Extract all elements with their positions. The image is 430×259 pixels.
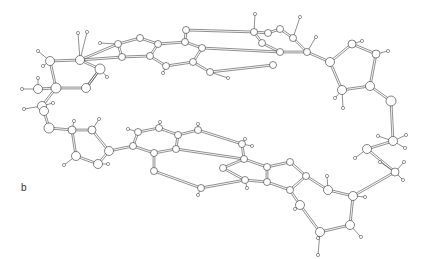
atom: [241, 156, 248, 163]
atom: [386, 96, 396, 106]
atom: [346, 221, 355, 230]
atom: [277, 49, 284, 56]
bond: [198, 131, 242, 145]
atom: [173, 146, 180, 153]
hydrogen-atom: [51, 101, 54, 104]
hydrogen-atom: [386, 49, 389, 52]
hydrogen-atom: [293, 207, 296, 210]
atom: [242, 177, 249, 184]
bond: [186, 29, 254, 31]
hydrogen-atom: [85, 30, 88, 33]
hydrogen-atom: [325, 174, 328, 177]
atom: [76, 56, 85, 65]
hydrogen-atom: [97, 117, 100, 120]
bond: [198, 129, 242, 143]
bond: [390, 101, 392, 141]
atom: [82, 84, 91, 93]
atom: [68, 126, 76, 134]
bond: [176, 150, 244, 160]
hydrogen-atom: [353, 156, 356, 159]
atom: [265, 30, 272, 37]
bond: [158, 41, 185, 43]
bond: [202, 47, 280, 51]
hydrogen-atom: [253, 12, 256, 15]
atom: [105, 147, 114, 156]
bond: [122, 57, 150, 58]
atom: [270, 62, 277, 69]
atom: [324, 186, 333, 195]
atom: [239, 141, 246, 148]
bond: [154, 172, 201, 189]
atom: [182, 39, 189, 46]
hydrogen-atom: [378, 160, 381, 163]
atom: [349, 192, 358, 201]
atom: [34, 85, 43, 94]
bond: [154, 170, 201, 187]
atom: [95, 64, 105, 74]
hydrogen-atom: [20, 87, 23, 90]
atom: [151, 150, 158, 157]
bond: [353, 173, 395, 197]
bond: [223, 167, 245, 179]
bond: [210, 64, 273, 71]
atom: [264, 179, 271, 186]
hydrogen-atom: [245, 186, 248, 189]
atom: [338, 86, 347, 95]
hydrogen-atom: [36, 49, 39, 52]
atom: [207, 69, 214, 76]
bond: [166, 61, 193, 65]
atom: [290, 35, 297, 42]
atom: [88, 126, 96, 134]
atom: [389, 137, 398, 146]
atom: [44, 123, 54, 133]
atom: [220, 165, 227, 172]
molecular-structure-diagram: [0, 0, 430, 259]
bond: [166, 63, 193, 67]
hydrogen-atom: [36, 76, 39, 79]
bond: [210, 66, 273, 73]
atom: [190, 59, 197, 66]
atom: [40, 107, 49, 116]
hydrogen-bond-layer: [22, 14, 406, 255]
atom: [156, 125, 163, 132]
atom: [363, 145, 372, 154]
atom: [303, 173, 310, 180]
hydrogen-atom: [226, 76, 229, 79]
atom: [195, 127, 202, 134]
atom: [72, 152, 81, 161]
atom: [259, 40, 266, 47]
atom: [348, 40, 356, 48]
hydrogen-atom: [359, 235, 362, 238]
atom: [264, 164, 271, 171]
hydrogen-atom: [404, 133, 407, 136]
hydrogen-atom: [363, 195, 366, 198]
hydrogen-atom: [341, 106, 344, 109]
atom: [326, 58, 335, 67]
hydrogen-atom: [401, 178, 404, 181]
atom: [296, 201, 305, 210]
bond: [176, 148, 244, 158]
hydrogen-atom: [314, 35, 317, 38]
atom: [119, 54, 126, 61]
bond: [223, 169, 245, 181]
bond: [353, 171, 395, 195]
atom: [151, 168, 158, 175]
atom: [198, 185, 205, 192]
hydrogen-atom: [158, 120, 161, 123]
bond: [299, 206, 319, 233]
hydrogen-atom: [161, 71, 164, 74]
hydrogen-atom: [196, 193, 199, 196]
bond: [201, 181, 245, 189]
hydrogen-atom: [316, 253, 319, 256]
hydrogen-atom: [243, 137, 246, 140]
atom: [304, 49, 311, 56]
bond: [301, 204, 321, 231]
atom: [147, 53, 154, 60]
hydrogen-atom: [22, 107, 25, 110]
hydrogen-atom: [196, 122, 199, 125]
atom: [277, 26, 284, 33]
atom: [137, 35, 144, 42]
atom: [183, 27, 190, 34]
bond: [186, 31, 254, 33]
bond: [368, 148, 396, 171]
